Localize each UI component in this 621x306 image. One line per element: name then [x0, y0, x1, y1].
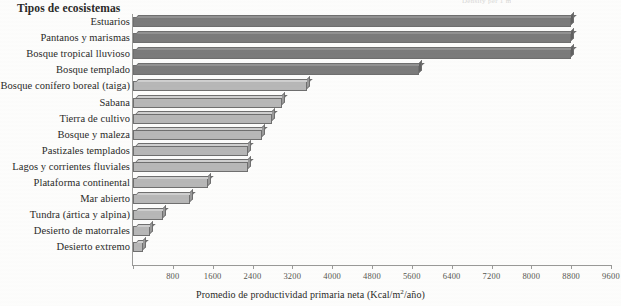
bar-row: Mar abierto: [0, 191, 621, 207]
x-axis-tick-label: 2400: [244, 271, 262, 281]
bar-row: Bosque templado: [0, 62, 621, 78]
bar-front-face: [133, 33, 571, 43]
bar-row: Estuarios: [0, 14, 621, 30]
category-label: Bosque templado: [56, 62, 130, 78]
bar-front-face: [133, 210, 163, 220]
bar-end-face: [307, 76, 310, 89]
y-axis-line: [132, 14, 133, 265]
bar-end-face: [571, 12, 574, 25]
bar-front-face: [133, 146, 248, 156]
bar-row: Tundra (ártica y alpina): [0, 207, 621, 223]
bar: [133, 162, 248, 172]
bar: [133, 98, 282, 108]
bar: [133, 65, 419, 75]
x-axis-tick: [611, 265, 612, 269]
bar: [133, 17, 571, 27]
x-axis-title-prefix: Promedio de productividad primaria neta …: [196, 289, 400, 300]
bar-top-face: [136, 240, 148, 243]
bar-front-face: [133, 49, 571, 59]
bar-top-face: [136, 79, 313, 82]
bar-end-face: [248, 141, 251, 154]
bar-row: Lagos y corrientes fluviales: [0, 159, 621, 175]
bar-end-face: [571, 44, 574, 57]
category-label: Plataforma continental: [34, 175, 130, 191]
x-axis-title-suffix: /año): [404, 289, 425, 300]
x-axis-tick-label: 3200: [283, 271, 301, 281]
bar-front-face: [133, 162, 248, 172]
bar-end-face: [190, 189, 193, 202]
category-label: Bosque tropical lluvioso: [26, 46, 130, 62]
x-axis-tick-label: 1600: [204, 271, 222, 281]
x-axis-tick: [292, 265, 293, 269]
x-axis-tick-label: 4000: [323, 271, 341, 281]
category-label: Bosque conífero boreal (taiga): [1, 78, 131, 94]
x-axis-tick: [492, 265, 493, 269]
bar-front-face: [133, 81, 307, 91]
bar-front-face: [133, 114, 272, 124]
bar-top-face: [136, 192, 196, 195]
bar-row: Pastizales templados: [0, 143, 621, 159]
bar-front-face: [133, 226, 150, 236]
bar: [133, 114, 272, 124]
x-axis-tick-label: 6400: [443, 271, 461, 281]
bar-front-face: [133, 194, 190, 204]
bar-top-face: [136, 111, 278, 114]
bar-top-face: [136, 47, 577, 50]
bar-top-face: [136, 63, 425, 66]
x-axis-tick-label: 7200: [483, 271, 501, 281]
x-axis-tick-label: 5600: [403, 271, 421, 281]
bar-row: Pantanos y marismas: [0, 30, 621, 46]
x-axis-tick: [372, 265, 373, 269]
x-axis-tick: [253, 265, 254, 269]
x-axis-tick-label: 8800: [562, 271, 580, 281]
bar-end-face: [208, 173, 211, 186]
bar: [133, 242, 143, 252]
bar-front-face: [133, 130, 262, 140]
bar-top-face: [136, 31, 577, 34]
x-axis-tick: [133, 265, 134, 269]
plot-area: EstuariosPantanos y marismasBosque tropi…: [0, 0, 621, 306]
category-label: Lagos y corrientes fluviales: [12, 159, 130, 175]
bar-row: Tierra de cultivo: [0, 111, 621, 127]
bar-front-face: [133, 98, 282, 108]
bar-row: Bosque tropical lluvioso: [0, 46, 621, 62]
bar-end-face: [163, 205, 166, 218]
bar: [133, 33, 571, 43]
bar-row: Bosque y maleza: [0, 127, 621, 143]
bar: [133, 210, 163, 220]
ecosystem-productivity-chart: Density per 1 m Tipos de ecosistemas Est…: [0, 0, 621, 306]
x-axis-tick-label: 9600: [602, 271, 620, 281]
bar-row: Desierto de matorrales: [0, 223, 621, 239]
x-axis-tick: [332, 265, 333, 269]
bar-front-face: [133, 17, 571, 27]
x-axis-tick: [452, 265, 453, 269]
bar-end-face: [419, 60, 422, 73]
bar: [133, 81, 307, 91]
x-axis-tick: [213, 265, 214, 269]
category-label: Desierto de matorrales: [34, 223, 130, 239]
bar-end-face: [248, 157, 251, 170]
category-label: Bosque y maleza: [58, 127, 130, 143]
x-axis-title: Promedio de productividad primaria neta …: [0, 288, 621, 300]
bar-front-face: [133, 178, 208, 188]
bar-top-face: [136, 176, 213, 179]
bar-row: Bosque conífero boreal (taiga): [0, 78, 621, 94]
x-axis-tick: [173, 265, 174, 269]
bar-top-face: [136, 15, 577, 18]
bar-top-face: [136, 143, 253, 146]
category-label: Pastizales templados: [42, 143, 130, 159]
bar-top-face: [136, 95, 288, 98]
bar: [133, 146, 248, 156]
bar: [133, 226, 150, 236]
x-axis-tick-label: 4800: [363, 271, 381, 281]
x-axis-tick-label: 8000: [522, 271, 540, 281]
category-label: Tundra (ártica y alpina): [30, 207, 130, 223]
category-label: Pantanos y marismas: [40, 30, 130, 46]
bar: [133, 130, 262, 140]
bar-end-face: [143, 237, 146, 250]
bar-end-face: [571, 28, 574, 41]
bar: [133, 194, 190, 204]
bar: [133, 49, 571, 59]
bar-front-face: [133, 242, 143, 252]
bar-top-face: [136, 127, 268, 130]
